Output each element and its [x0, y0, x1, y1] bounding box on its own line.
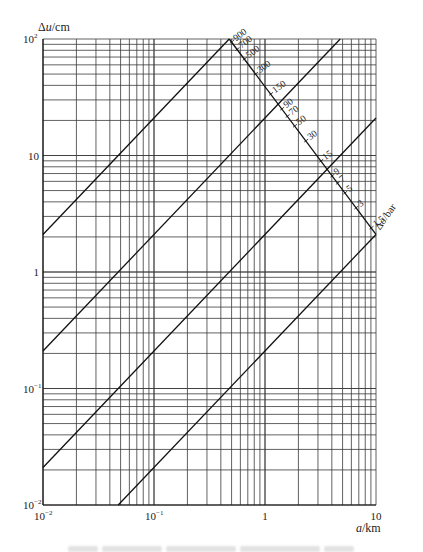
y-axis-label: Δu/cm [38, 20, 70, 34]
series-line-3 [43, 118, 376, 468]
grid-lines [43, 39, 376, 505]
series-line-4 [118, 234, 376, 505]
log-log-chart: 900700500300150907050301597531.5Δσ/bar 1… [0, 0, 423, 552]
y-tick-label: 10−1 [23, 382, 42, 395]
y-tick-label: 1 [34, 266, 40, 278]
x-tick-label: 1 [262, 510, 268, 522]
series-line-1 [43, 39, 229, 234]
x-tick-label: 10−2 [34, 509, 53, 522]
x-tick-label: 10−1 [145, 509, 164, 522]
y-tick-label: 102 [23, 32, 38, 45]
series-line-2 [43, 39, 340, 351]
delta-sigma-axis-line [229, 39, 376, 234]
y-tick-label: 10 [28, 150, 40, 162]
figure-caption-obscured [68, 538, 358, 546]
x-axis-label: a/km [356, 521, 381, 535]
